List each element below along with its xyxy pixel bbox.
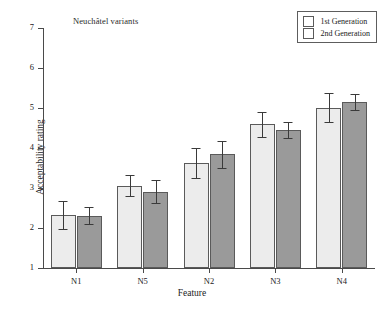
bar-n4-gen1 xyxy=(316,108,341,268)
y-tick-label: 7 xyxy=(30,22,34,33)
error-bar-n1-gen1 xyxy=(63,201,64,229)
error-bar-n4-gen1 xyxy=(329,93,330,123)
error-cap-upper xyxy=(85,207,94,208)
error-cap-lower xyxy=(85,224,94,225)
x-tick-label-n2: N2 xyxy=(204,276,214,286)
error-bar-n2-gen2 xyxy=(222,141,223,167)
y-tick: 6 xyxy=(38,68,43,69)
error-bar-n5-gen2 xyxy=(156,180,157,202)
error-bar-n3-gen2 xyxy=(288,122,289,137)
error-cap-upper xyxy=(151,180,160,181)
x-tick-label-n4: N4 xyxy=(337,276,347,286)
legend-item-gen1: 1st Generation xyxy=(303,15,370,27)
legend-label-gen1: 1st Generation xyxy=(320,17,367,26)
chart-title: Neuchâtel variants xyxy=(73,16,138,26)
error-cap-lower xyxy=(59,229,68,230)
y-tick: 4 xyxy=(38,148,43,149)
error-cap-upper xyxy=(218,141,227,142)
bar-n2-gen2 xyxy=(210,154,235,268)
y-tick: 1 xyxy=(38,268,43,269)
x-tick xyxy=(76,268,77,273)
y-tick-label: 1 xyxy=(30,262,34,273)
error-bar-n3-gen1 xyxy=(262,112,263,137)
error-bar-n5-gen1 xyxy=(130,175,131,196)
x-tick xyxy=(143,268,144,273)
error-cap-lower xyxy=(218,168,227,169)
y-tick-label: 3 xyxy=(30,182,34,193)
error-cap-upper xyxy=(258,112,267,113)
error-cap-lower xyxy=(324,122,333,123)
y-tick: 5 xyxy=(38,108,43,109)
plot-area: 1234567 N1N5N2N3N4 xyxy=(43,28,375,268)
y-axis-line xyxy=(43,28,44,269)
error-bar-n2-gen1 xyxy=(196,148,197,178)
error-cap-lower xyxy=(151,203,160,204)
y-tick-label: 5 xyxy=(30,102,34,113)
y-tick-label: 2 xyxy=(30,222,34,233)
error-cap-upper xyxy=(324,93,333,94)
x-axis-label: Feature xyxy=(0,288,384,298)
y-tick: 2 xyxy=(38,228,43,229)
error-cap-upper xyxy=(350,94,359,95)
y-tick: 3 xyxy=(38,188,43,189)
error-cap-upper xyxy=(59,201,68,202)
error-bar-n4-gen2 xyxy=(355,94,356,111)
error-cap-lower xyxy=(284,138,293,139)
error-cap-lower xyxy=(350,110,359,111)
bar-n4-gen2 xyxy=(342,102,367,268)
bar-n3-gen1 xyxy=(250,124,275,268)
error-cap-upper xyxy=(125,175,134,176)
error-cap-lower xyxy=(258,137,267,138)
error-cap-upper xyxy=(192,148,201,149)
error-bar-n1-gen2 xyxy=(89,207,90,225)
y-tick-label: 6 xyxy=(30,62,34,73)
error-cap-lower xyxy=(125,196,134,197)
chart-figure: Neuchâtel variants 1st Generation 2nd Ge… xyxy=(0,0,384,313)
legend-swatch-gen1 xyxy=(303,16,314,27)
x-tick-label-n1: N1 xyxy=(71,276,81,286)
error-cap-lower xyxy=(192,178,201,179)
x-tick-label-n5: N5 xyxy=(137,276,147,286)
x-tick xyxy=(275,268,276,273)
x-tick-label-n3: N3 xyxy=(270,276,280,286)
y-tick-label: 4 xyxy=(30,142,34,153)
bar-n3-gen2 xyxy=(276,130,301,268)
y-tick: 7 xyxy=(38,28,43,29)
bar-n5-gen1 xyxy=(117,186,142,268)
error-cap-upper xyxy=(284,122,293,123)
x-tick xyxy=(342,268,343,273)
x-tick xyxy=(209,268,210,273)
